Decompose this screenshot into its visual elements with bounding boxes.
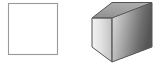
shapes-illustration xyxy=(0,0,158,67)
square-outline xyxy=(9,4,58,55)
figure-canvas xyxy=(0,0,158,67)
square-shape xyxy=(9,4,58,55)
